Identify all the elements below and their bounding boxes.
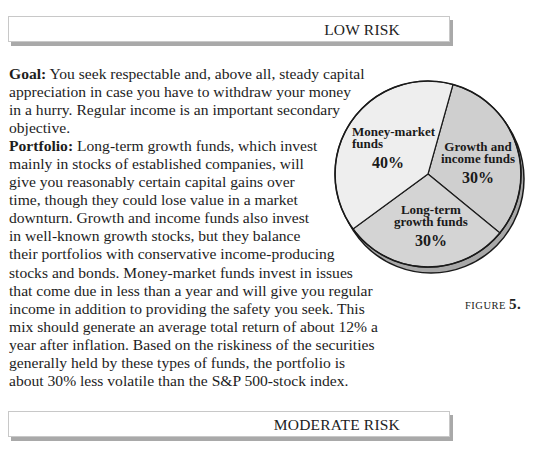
moderate-risk-banner: MODERATE RISK [8,411,450,437]
slice-label-long-term-growth: Long-term growth funds 30% [394,204,468,250]
figure-caption: FIGURE 5. [465,296,521,313]
moderate-risk-label: MODERATE RISK [274,416,400,434]
slice-label-money-market: Money-market funds 40% [352,126,435,172]
slice-label-growth-income: Growth and income funds 30% [441,141,515,187]
